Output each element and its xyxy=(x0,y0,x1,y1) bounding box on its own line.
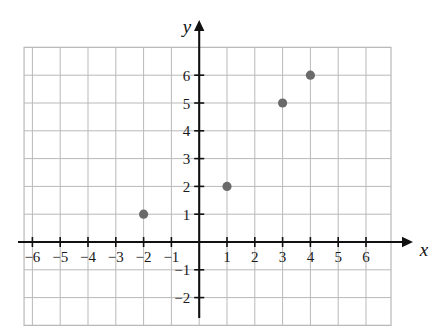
x-axis-arrowhead xyxy=(402,237,413,247)
y-tick-label: 1 xyxy=(183,207,191,223)
data-point xyxy=(278,98,287,107)
axes-lines xyxy=(18,20,413,318)
coordinate-plane-figure: −6−5−4−3−2−1123456654321−1−2 x y xyxy=(0,0,439,327)
x-tick-label: 1 xyxy=(223,249,231,265)
y-tick-label: 6 xyxy=(183,68,191,84)
y-tick-label: −2 xyxy=(174,290,190,306)
scatter-plot-svg: −6−5−4−3−2−1123456654321−1−2 x y xyxy=(0,0,439,327)
x-tick-label: −2 xyxy=(136,249,152,265)
x-tick-label: 4 xyxy=(307,249,315,265)
y-tick-label: 2 xyxy=(183,179,191,195)
x-tick-label: 2 xyxy=(251,249,259,265)
x-tick-label: 6 xyxy=(362,249,370,265)
y-tick-label: 5 xyxy=(183,96,191,112)
data-point xyxy=(306,71,315,80)
y-axis-label: y xyxy=(181,16,192,37)
x-tick-label: −4 xyxy=(80,249,96,265)
y-tick-label: −1 xyxy=(174,262,190,278)
x-tick-label: 5 xyxy=(334,249,342,265)
x-tick-label: 3 xyxy=(279,249,287,265)
x-axis-label: x xyxy=(419,239,429,260)
x-tick-label: −3 xyxy=(108,249,124,265)
y-axis-arrowhead xyxy=(194,20,204,31)
data-point xyxy=(139,210,148,219)
x-tick-label: −5 xyxy=(52,249,68,265)
data-point xyxy=(222,182,231,191)
y-tick-label: 3 xyxy=(183,151,191,167)
grid-lines xyxy=(24,47,391,325)
y-tick-label: 4 xyxy=(183,123,191,139)
x-tick-label: −6 xyxy=(24,249,40,265)
